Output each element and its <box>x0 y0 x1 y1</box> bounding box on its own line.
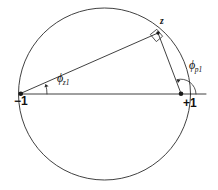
label-minus-one: −1 <box>14 95 28 107</box>
figure-container: −1 +1 z ϕz1 ϕp1 <box>0 0 218 190</box>
label-angle-phi-p1: ϕp1 <box>189 59 203 71</box>
geometry-diagram <box>0 0 218 190</box>
angle-arrow-phi-z1-icon <box>44 84 48 87</box>
label-angle-phi-z1: ϕz1 <box>57 72 70 84</box>
vertex-dot-z <box>156 31 159 34</box>
phi-z1-subscript: z1 <box>63 78 70 87</box>
chord-minus1-to-z <box>21 33 159 94</box>
label-plus-one: +1 <box>183 97 197 109</box>
phi-p1-subscript: p1 <box>195 65 203 74</box>
chord-z-to-plus1 <box>158 33 181 94</box>
label-point-z: z <box>160 17 164 27</box>
